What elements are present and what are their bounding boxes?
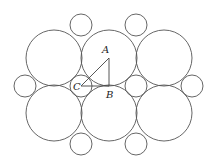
small-circle <box>14 75 36 97</box>
label-a: A <box>101 44 109 55</box>
small-circle <box>181 75 203 97</box>
label-c: C <box>73 81 81 92</box>
small-circle <box>125 14 147 36</box>
small-circle <box>70 133 92 155</box>
large-circle <box>136 30 192 86</box>
label-b: B <box>105 89 113 100</box>
small-circles <box>14 14 203 155</box>
small-circle <box>70 14 92 36</box>
circle-packing-diagram: A B C <box>0 0 214 166</box>
small-circle <box>125 75 147 97</box>
large-circle <box>26 85 82 141</box>
small-circle <box>125 133 147 155</box>
